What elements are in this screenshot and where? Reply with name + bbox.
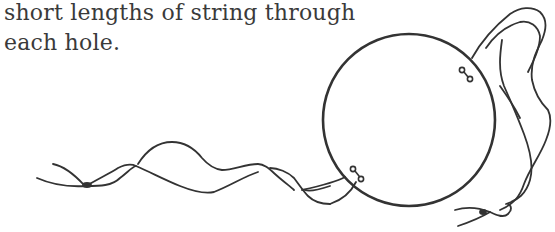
left-string — [37, 142, 330, 204]
disc — [323, 34, 495, 206]
circle-with-strings-illustration — [0, 0, 555, 232]
right-string-loops — [455, 8, 550, 226]
lower-left-hole-pair — [350, 166, 363, 181]
upper-right-hole-pair — [459, 67, 472, 81]
